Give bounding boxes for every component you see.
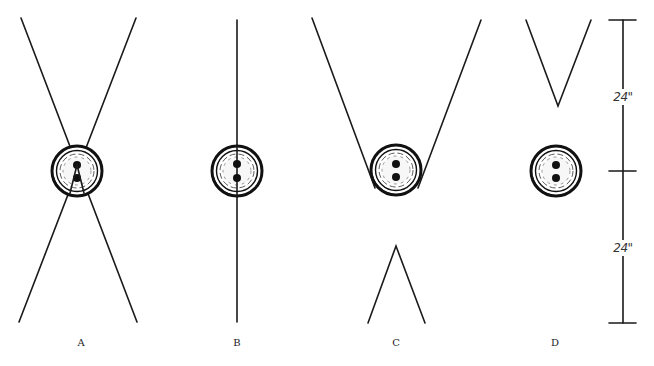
button-line-diagram [0, 0, 654, 366]
dimension-line [609, 20, 636, 323]
panel-label-d: D [551, 337, 559, 348]
thread-line [312, 18, 375, 188]
panel-label-b: B [233, 337, 240, 348]
panel-b [212, 20, 262, 322]
button-icon [531, 146, 581, 196]
dimension-label-upper: 24" [613, 89, 632, 105]
button-icon [52, 146, 102, 196]
panel-c [312, 18, 481, 323]
inverted-v-line [368, 246, 425, 323]
panel-label-c: C [392, 337, 400, 348]
button-icon [371, 145, 421, 195]
panel-label-a: A [77, 337, 84, 348]
button-icon [212, 146, 262, 196]
dimension-label-lower: 24" [613, 240, 632, 256]
thread-line [418, 20, 481, 188]
panel-d [526, 20, 591, 196]
v-line [526, 20, 591, 106]
panel-a [19, 18, 137, 322]
